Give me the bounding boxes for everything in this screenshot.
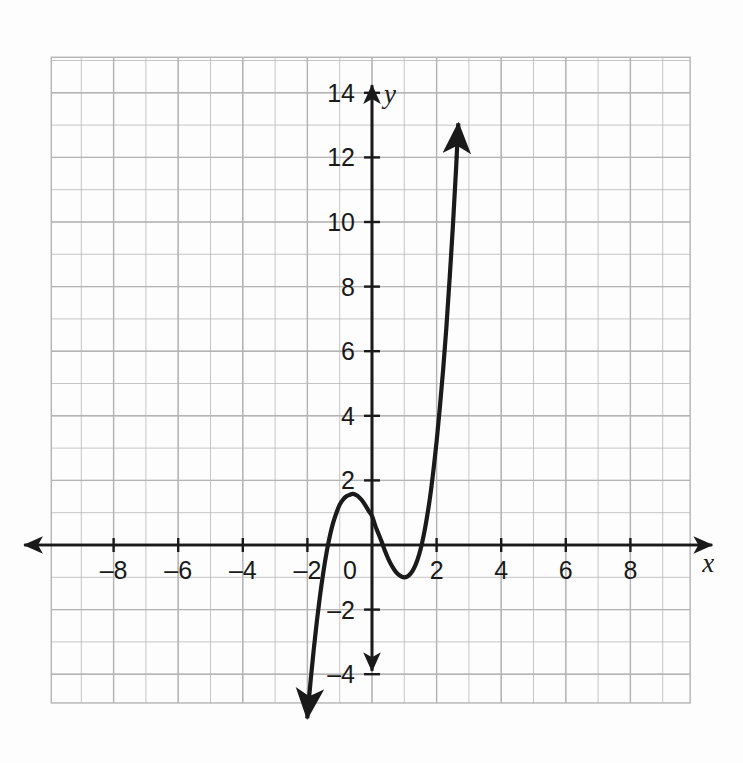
x-tick-label: –6: [164, 556, 192, 584]
x-tick-label: 8: [623, 556, 637, 584]
y-tick-label: 14: [327, 79, 355, 107]
origin-label: 0: [343, 556, 357, 584]
y-tick-label: 12: [327, 143, 355, 171]
x-tick-label: –8: [100, 556, 128, 584]
graph-page: –8–6–4–22468–4–224681012140 yx: [0, 0, 743, 763]
x-axis-name: x: [701, 548, 714, 578]
y-tick-label: –4: [327, 660, 355, 688]
coordinate-plane: –8–6–4–22468–4–224681012140 yx: [0, 0, 743, 763]
y-tick-label: 8: [341, 273, 355, 301]
y-tick-label: –2: [327, 596, 355, 624]
y-tick-label: 4: [341, 402, 355, 430]
x-tick-label: –4: [229, 556, 257, 584]
y-tick-label: 2: [341, 466, 355, 494]
x-tick-label: 2: [430, 556, 444, 584]
x-tick-label: –2: [293, 556, 321, 584]
y-tick-label: 10: [327, 208, 355, 236]
y-axis-name: y: [381, 79, 396, 109]
x-tick-label: 6: [559, 556, 573, 584]
y-tick-label: 6: [341, 337, 355, 365]
x-tick-label: 4: [494, 556, 508, 584]
